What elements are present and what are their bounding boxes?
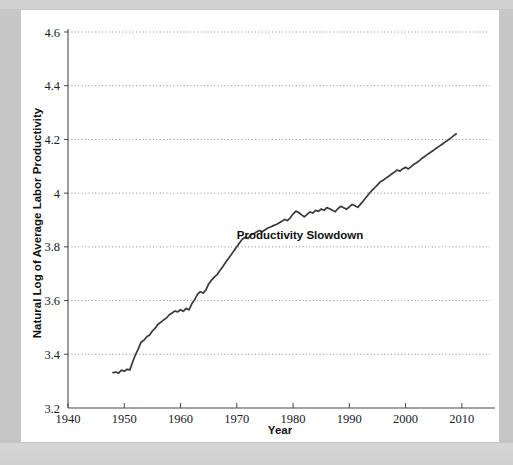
annotation-productivity-slowdown: Productivity Slowdown bbox=[237, 229, 364, 241]
x-tick-label: 2010 bbox=[449, 412, 474, 426]
chart-plot-area: 3.23.43.63.844.24.44.6 19401950196019701… bbox=[21, 10, 499, 442]
y-tick-label: 3.8 bbox=[44, 240, 60, 254]
x-axis-title: Year bbox=[268, 424, 293, 436]
y-tick-label: 4.4 bbox=[44, 79, 60, 93]
y-tick-label: 4 bbox=[54, 187, 61, 201]
x-tick-label: 1970 bbox=[224, 412, 249, 426]
x-tick-label: 1950 bbox=[112, 412, 137, 426]
y-axis-ticks: 3.23.43.63.844.24.44.6 bbox=[44, 26, 68, 416]
x-axis-ticks: 19401950196019701980199020002010 bbox=[56, 403, 475, 426]
chart-annotations: Productivity Slowdown bbox=[237, 229, 364, 241]
y-tick-label: 4.2 bbox=[44, 133, 60, 147]
x-tick-label: 2000 bbox=[393, 412, 418, 426]
x-tick-label: 1990 bbox=[337, 412, 362, 426]
figure-card: 3.23.43.63.844.24.44.6 19401950196019701… bbox=[21, 10, 499, 442]
y-tick-label: 4.6 bbox=[44, 26, 60, 40]
scan-artifact-strip bbox=[0, 0, 513, 9]
gridlines bbox=[68, 32, 490, 354]
y-axis-title: Natural Log of Average Labor Productivit… bbox=[31, 107, 43, 338]
line-chart-svg: 3.23.43.63.844.24.44.6 19401950196019701… bbox=[21, 10, 499, 442]
y-tick-label: 3.4 bbox=[44, 348, 60, 362]
x-tick-label: 1940 bbox=[56, 412, 81, 426]
productivity-series-line bbox=[113, 134, 456, 373]
x-tick-label: 1960 bbox=[168, 412, 193, 426]
y-tick-label: 3.6 bbox=[44, 294, 60, 308]
